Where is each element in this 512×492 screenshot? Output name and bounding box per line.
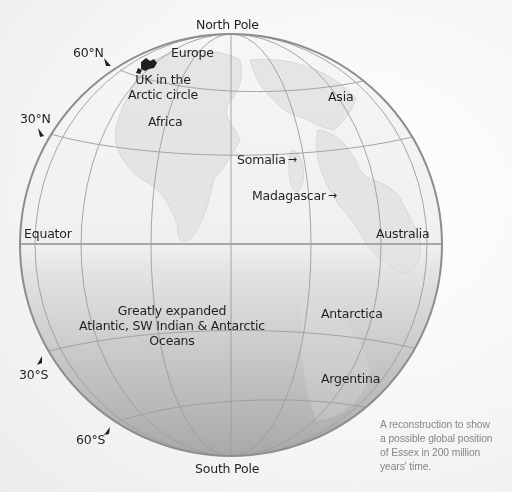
lat-60s-label: 60°S bbox=[76, 432, 105, 447]
north-pole-label: North Pole bbox=[196, 17, 259, 32]
caption-line2: a possible global position bbox=[380, 432, 512, 446]
ocean-note-line3: Oceans bbox=[62, 333, 282, 348]
antarctica-label: Antarctica bbox=[321, 306, 383, 321]
madagascar-text: Madagascar bbox=[252, 188, 326, 203]
uk-label-line1: UK in the bbox=[108, 72, 218, 87]
uk-label-line2: Arctic circle bbox=[108, 87, 218, 102]
europe-label: Europe bbox=[171, 45, 214, 60]
madagascar-label: Madagascar→ bbox=[252, 188, 337, 204]
south-pole-label: South Pole bbox=[195, 461, 259, 476]
ocean-note: Greatly expanded Atlantic, SW Indian & A… bbox=[62, 303, 282, 348]
caption-line1: A reconstruction to show bbox=[380, 418, 512, 432]
pointer-30n-icon bbox=[38, 128, 44, 137]
australia-label: Australia bbox=[376, 226, 430, 241]
somalia-text: Somalia bbox=[237, 152, 286, 167]
argentina-label: Argentina bbox=[321, 371, 380, 386]
lat-30n-label: 30°N bbox=[20, 111, 51, 126]
asia-label: Asia bbox=[328, 89, 353, 104]
pointer-60n-icon bbox=[104, 58, 111, 66]
arrow-right-icon: → bbox=[288, 152, 297, 167]
ocean-note-line2: Atlantic, SW Indian & Antarctic bbox=[62, 318, 282, 333]
uk-label: UK in the Arctic circle bbox=[108, 72, 218, 102]
figure-caption: A reconstruction to show a possible glob… bbox=[380, 418, 512, 474]
ocean-note-line1: Greatly expanded bbox=[62, 303, 282, 318]
caption-line4: years' time. bbox=[380, 460, 512, 474]
equator-label: Equator bbox=[24, 226, 72, 241]
lat-30s-label: 30°S bbox=[19, 367, 48, 382]
africa-label: Africa bbox=[148, 114, 182, 129]
arrow-right-icon: → bbox=[328, 188, 337, 203]
lat-60n-label: 60°N bbox=[73, 45, 104, 60]
caption-line3: of Essex in 200 million bbox=[380, 446, 512, 460]
pointer-30s-icon bbox=[37, 356, 42, 365]
somalia-label: Somalia→ bbox=[237, 152, 297, 168]
